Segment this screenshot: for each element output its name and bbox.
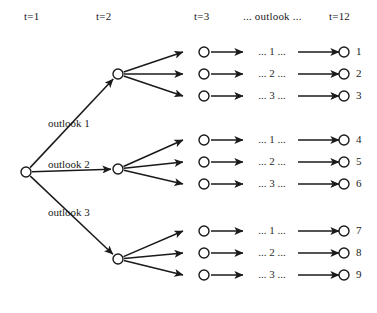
stage-header-1: t=1 — [24, 10, 39, 22]
edge-stage2-1-to-stage3-1 — [124, 52, 183, 72]
intermediate-label-5: ... 2 ... — [248, 155, 296, 167]
stage-header-5: t=12 — [329, 10, 350, 22]
intermediate-label-8: ... 2 ... — [248, 246, 296, 258]
scenario-tree-figure: t=1t=2t=3... outlook ...t=12 outlook 1ou… — [0, 0, 377, 313]
intermediate-label-1: ... 1 ... — [248, 45, 296, 57]
leaf-node-6[interactable] — [339, 179, 349, 189]
leaf-incoming-edges — [298, 52, 339, 275]
stage-header-3: t=3 — [194, 10, 209, 22]
scenario-index-4: 4 — [356, 133, 362, 145]
stage3-node-8[interactable] — [199, 248, 209, 258]
leaf-node-4[interactable] — [339, 135, 349, 145]
leaf-node-1[interactable] — [339, 47, 349, 57]
leaf-node-3[interactable] — [339, 91, 349, 101]
outlook-label-3: outlook 3 — [48, 206, 90, 218]
intermediate-label-7: ... 1 ... — [248, 224, 296, 236]
stage3-node-5[interactable] — [199, 157, 209, 167]
scenario-index-6: 6 — [356, 177, 362, 189]
stage-header-2: t=2 — [96, 10, 111, 22]
outlook-label-1: outlook 1 — [48, 117, 90, 129]
stage2-node-2[interactable] — [113, 164, 123, 174]
scenario-index-1: 1 — [356, 45, 362, 57]
edge-stage2-2-to-stage3-6 — [124, 170, 183, 184]
leaf-node-7[interactable] — [339, 226, 349, 236]
intermediate-label-4: ... 1 ... — [248, 133, 296, 145]
stage3-node-6[interactable] — [199, 179, 209, 189]
tree-graphics — [0, 0, 377, 313]
scenario-index-9: 9 — [356, 268, 362, 280]
intermediate-label-9: ... 3 ... — [248, 268, 296, 280]
scenario-index-2: 2 — [356, 67, 362, 79]
stage2-node-3[interactable] — [113, 254, 123, 264]
edge-stage2-3-to-stage3-8 — [124, 253, 183, 258]
scenario-index-5: 5 — [356, 155, 362, 167]
intermediate-label-2: ... 2 ... — [248, 67, 296, 79]
stage3-node-2[interactable] — [199, 69, 209, 79]
scenario-index-8: 8 — [356, 246, 362, 258]
intermediate-label-6: ... 3 ... — [248, 177, 296, 189]
stage2-edges — [123, 52, 183, 275]
stage2-node-1[interactable] — [113, 69, 123, 79]
stage3-node-7[interactable] — [199, 226, 209, 236]
edge-stage2-3-to-stage3-9 — [124, 260, 183, 275]
outlook-label-2: outlook 2 — [48, 158, 90, 170]
root-node[interactable] — [21, 167, 31, 177]
intermediate-label-3: ... 3 ... — [248, 89, 296, 101]
stage3-node-3[interactable] — [199, 91, 209, 101]
scenario-index-3: 3 — [356, 89, 362, 101]
stage3-outgoing-edges — [211, 52, 243, 275]
edge-stage2-3-to-stage3-7 — [124, 231, 183, 257]
stage3-node-4[interactable] — [199, 135, 209, 145]
leaf-node-9[interactable] — [339, 270, 349, 280]
stage3-node-1[interactable] — [199, 47, 209, 57]
stage-header-4: ... outlook ... — [243, 10, 302, 22]
edge-stage2-1-to-stage3-3 — [124, 76, 183, 96]
leaf-node-8[interactable] — [339, 248, 349, 258]
scenario-index-7: 7 — [356, 224, 362, 236]
leaf-node-2[interactable] — [339, 69, 349, 79]
leaf-node-5[interactable] — [339, 157, 349, 167]
stage3-node-9[interactable] — [199, 270, 209, 280]
